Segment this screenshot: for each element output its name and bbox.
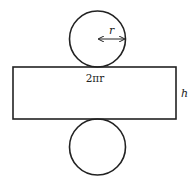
height-label: h [181,87,188,100]
cylinder-net-diagram: r 2πr h [0,0,195,181]
bottom-circle [70,119,126,175]
circumference-label: 2πr [86,72,106,84]
radius-label: r [109,24,115,37]
